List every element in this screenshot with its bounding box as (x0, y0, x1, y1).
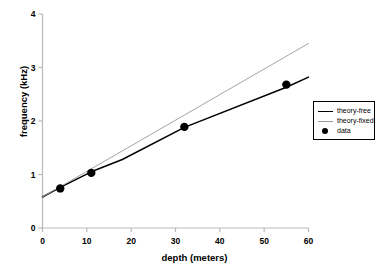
legend-label: theory-fixed (337, 116, 374, 125)
legend-line-black-icon (317, 106, 334, 115)
series-line-theory-free (43, 77, 309, 197)
chart-legend: theory-free theory-fixed data (313, 101, 375, 140)
y-tick-label: 4 (11, 9, 36, 19)
x-axis-title: depth (meters) (0, 252, 389, 263)
axes (39, 14, 309, 232)
y-tick-label: 0 (11, 223, 36, 233)
x-tick-label: 10 (82, 236, 91, 246)
data-point (282, 80, 290, 88)
data-series (43, 43, 309, 197)
data-point (56, 184, 64, 192)
legend-line-gray-icon (317, 116, 334, 125)
x-tick-label: 20 (126, 236, 135, 246)
chart-figure: 01234 0102030405060 depth (meters) frequ… (0, 0, 389, 276)
x-tick-label: 40 (215, 236, 224, 246)
data-point (180, 123, 188, 131)
legend-item-theory-fixed: theory-fixed (317, 116, 371, 125)
x-tick-label: 0 (40, 236, 45, 246)
x-tick-label: 60 (304, 236, 313, 246)
legend-dot-icon (317, 126, 334, 135)
data-point (87, 169, 95, 177)
legend-item-data: data (317, 126, 371, 135)
series-line-theory-fixed (43, 43, 309, 197)
legend-item-theory-free: theory-free (317, 106, 371, 115)
x-tick-label: 50 (259, 236, 268, 246)
legend-label: theory-free (337, 106, 371, 115)
legend-label: data (337, 126, 351, 135)
y-axis-title: frequency (kHz) (18, 27, 29, 177)
x-tick-label: 30 (171, 236, 180, 246)
